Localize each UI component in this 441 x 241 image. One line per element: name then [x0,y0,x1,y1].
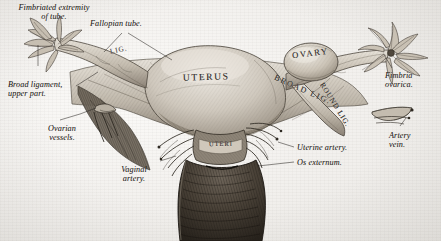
label-ovarian-vessels: Ovarian vessels. [36,124,88,143]
label-broad-ligament-upper: Broad ligament, upper part. [8,80,62,99]
vagina [178,160,265,241]
uterus-body [145,46,286,141]
label-fimbria-ovarica: Fimbria ovarica. [385,71,413,90]
label-fallopian-tube: Fallopian tube. [90,19,142,28]
right-vessel-stumps [372,107,414,124]
label-os-externum: Os externum. [297,158,342,167]
label-vaginal-artery: Vaginal artery. [108,165,160,184]
leader-os-externum [258,162,294,166]
label-artery-vein: Artery vein. [389,131,411,150]
caption-cervix-uteri: UTERI [209,140,233,147]
leader-uterine-artery [278,142,294,147]
leader-fallopian-right [128,33,172,60]
leader-artery-vein [400,118,406,126]
label-uterine-artery: Uterine artery. [297,143,347,152]
caption-uterus: UTERUS [183,71,230,83]
cervix [193,130,247,165]
anatomical-plate: UTERUS OVARY BROAD LIG. ROUND LIG. LIG. … [0,0,441,241]
leader-vaginal-artery [160,156,176,161]
engraving-artwork [0,0,441,241]
